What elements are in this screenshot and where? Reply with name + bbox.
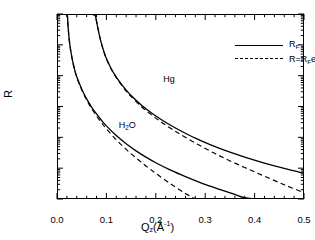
x-tick-label: 0.1	[86, 215, 126, 225]
legend-label-rough: R=RFe-q²σ²	[289, 53, 315, 65]
curve-Hg-fresnel	[57, 14, 304, 173]
figure: R Qz(Å-1) Hg H2O RF R=RFe-q²σ² 0.00.10.2…	[0, 0, 315, 240]
curve-Hg-rough	[57, 14, 304, 193]
curve-H2O-fresnel	[57, 14, 255, 199]
x-tick-label: 0.5	[284, 215, 315, 225]
x-tick-label: 0.3	[185, 215, 225, 225]
annotation-hg: Hg	[163, 75, 175, 84]
x-tick-label: 0.0	[37, 215, 77, 225]
legend-line-solid	[235, 45, 283, 46]
y-axis-label: R	[2, 90, 14, 98]
legend-line-dashed	[235, 58, 283, 59]
data-curves	[57, 14, 304, 199]
x-tick-label: 0.4	[235, 215, 275, 225]
legend-label-fresnel: RF	[289, 40, 299, 50]
plot-area: Hg H2O RF R=RFe-q²σ² 0.00.10.20.30.40.5	[57, 14, 304, 199]
curve-H2O-rough	[57, 14, 195, 199]
x-tick-label: 0.2	[136, 215, 176, 225]
annotation-h2o: H2O	[119, 121, 136, 131]
